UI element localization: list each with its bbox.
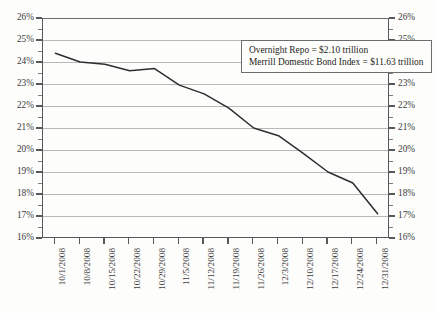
x-axis-label: 12/31/2008 xyxy=(381,248,390,290)
x-axis-tick xyxy=(351,238,352,244)
y-axis-label-left: 18% xyxy=(17,189,34,198)
y-axis-label-left: 25% xyxy=(17,35,34,44)
y-axis-label-left: 26% xyxy=(17,13,34,22)
y-axis-label-right: 17% xyxy=(398,211,415,220)
y-axis-label-left: 24% xyxy=(17,57,34,66)
x-axis-tick xyxy=(153,238,154,244)
y-axis-label-left: 22% xyxy=(17,101,34,110)
x-axis-tick xyxy=(54,238,55,244)
x-axis-label: 12/24/2008 xyxy=(356,248,365,290)
x-axis-label: 11/26/2008 xyxy=(257,248,266,290)
annotation-line-overnight-repo: Overnight Repo = $2.10 trillion xyxy=(249,45,425,57)
x-axis-tick xyxy=(326,238,327,244)
x-axis-label: 10/29/2008 xyxy=(158,248,167,290)
x-axis-label: 10/22/2008 xyxy=(133,248,142,290)
x-axis-label: 12/17/2008 xyxy=(331,248,340,290)
x-axis-label: 11/5/2008 xyxy=(182,248,191,285)
y-axis-label-right: 23% xyxy=(398,79,415,88)
x-axis-label: 12/10/2008 xyxy=(306,248,315,290)
y-axis-label-right: 21% xyxy=(398,123,415,132)
x-axis-tick xyxy=(103,238,104,244)
y-axis-label-left: 23% xyxy=(17,79,34,88)
x-axis-label: 10/15/2008 xyxy=(108,248,117,290)
y-axis-label-right: 20% xyxy=(398,145,415,154)
x-axis-label: 11/19/2008 xyxy=(232,248,241,290)
x-axis-label: 10/8/2008 xyxy=(83,248,92,285)
y-axis-label-right: 19% xyxy=(398,167,415,176)
x-axis-tick xyxy=(277,238,278,244)
x-axis-label: 12/3/2008 xyxy=(281,248,290,285)
x-axis-label: 11/12/2008 xyxy=(207,248,216,290)
y-axis-label-right: 26% xyxy=(398,13,415,22)
x-axis-tick xyxy=(128,238,129,244)
annotation-box: Overnight Repo = $2.10 trillion Merrill … xyxy=(241,40,432,73)
series-path xyxy=(55,53,377,214)
y-axis-label-right: 22% xyxy=(398,101,415,110)
y-axis-label-left: 17% xyxy=(17,211,34,220)
y-axis-label-left: 21% xyxy=(17,123,34,132)
x-axis-tick xyxy=(376,238,377,244)
chart-root: 26%25%24%23%22%21%20%19%18%17%16% 26%25%… xyxy=(0,0,437,313)
y-axis-label-right: 16% xyxy=(398,233,415,242)
y-axis-label-left: 19% xyxy=(17,167,34,176)
x-axis-tick xyxy=(79,238,80,244)
x-axis-tick xyxy=(252,238,253,244)
x-axis-tick xyxy=(302,238,303,244)
y-axis-label-right: 18% xyxy=(398,189,415,198)
x-axis-label: 10/1/2008 xyxy=(58,248,67,285)
x-axis-tick xyxy=(227,238,228,244)
annotation-line-merrill-index: Merrill Domestic Bond Index = $11.63 tri… xyxy=(249,57,425,69)
y-axis-label-left: 20% xyxy=(17,145,34,154)
x-axis-tick xyxy=(178,238,179,244)
plot-area: Overnight Repo = $2.10 trillion Merrill … xyxy=(42,18,389,238)
y-axis-label-left: 16% xyxy=(17,233,34,242)
x-axis-tick xyxy=(202,238,203,244)
